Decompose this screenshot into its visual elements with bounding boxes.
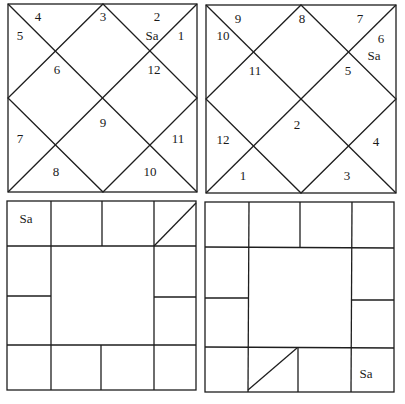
house-sign-label: 9 [100,115,107,130]
house-sign-label: 7 [357,11,364,26]
south-chart-2: Sa [205,202,394,392]
horoscope-charts: 32Sa1456129711810 910876Sa115212413 Sa [0,0,405,404]
house-sign-label: 5 [345,63,352,78]
house-sign-label: 2 [154,9,161,24]
house-sign-label: 4 [373,134,380,149]
planet-label: Sa [20,211,33,226]
house-sign-label: 6 [378,31,385,46]
house-sign-label: 4 [35,9,42,24]
house-sign-label: 1 [178,28,185,43]
north-chart-2: 910876Sa115212413 [206,5,396,193]
house-sign-label: 11 [172,131,185,146]
house-sign-label: 3 [100,9,107,24]
house-sign-label: 7 [17,131,24,146]
grid-line [351,202,352,392]
house-sign-label: 5 [17,28,24,43]
house-sign-label: 8 [299,11,306,26]
house-sign-label: 9 [235,11,242,26]
ascendant-marker [154,203,196,246]
house-sign-label: 2 [294,117,301,132]
house-sign-label: 12 [217,132,230,147]
house-sign-label: 12 [148,62,161,77]
house-sign-label: 3 [344,168,351,183]
planet-label: Sa [360,366,373,381]
planet-label: Sa [146,28,159,43]
house-sign-label: 10 [144,164,157,179]
south-chart-1: Sa [7,201,196,390]
house-sign-label: 8 [53,164,60,179]
house-sign-label: 6 [54,62,61,77]
north-chart-1: 32Sa1456129711810 [8,4,197,192]
grid-line [248,202,249,392]
ascendant-marker [248,348,297,390]
house-sign-label: 11 [249,63,262,78]
house-sign-label: 1 [240,168,247,183]
planet-label: Sa [368,48,381,63]
grid-line [205,347,394,348]
house-sign-label: 10 [217,28,230,43]
